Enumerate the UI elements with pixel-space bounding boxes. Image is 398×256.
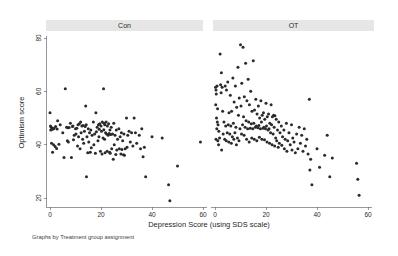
- data-point: [238, 97, 241, 100]
- data-point: [118, 147, 121, 150]
- data-point: [248, 141, 251, 144]
- data-point: [236, 137, 239, 140]
- data-point: [128, 130, 131, 133]
- data-point: [120, 148, 123, 151]
- data-points-ot: [214, 43, 361, 197]
- data-point: [217, 143, 220, 146]
- data-point: [249, 127, 252, 130]
- data-point: [259, 99, 262, 102]
- data-point: [303, 127, 306, 130]
- data-point: [276, 129, 279, 132]
- y-axis-title: Optimism score: [17, 96, 26, 148]
- y-tick-label-80: 80: [35, 34, 42, 42]
- data-point: [217, 130, 220, 133]
- data-point: [138, 134, 141, 137]
- data-points-con: [49, 87, 202, 202]
- data-point: [253, 138, 256, 141]
- data-point: [328, 175, 331, 178]
- data-point: [294, 151, 297, 154]
- data-point: [215, 117, 218, 120]
- data-point: [112, 122, 115, 125]
- data-point: [231, 77, 234, 80]
- data-point: [49, 125, 52, 128]
- data-point: [89, 151, 92, 154]
- data-point: [214, 103, 217, 106]
- data-point: [235, 106, 238, 109]
- data-point: [263, 118, 266, 121]
- data-point: [226, 81, 229, 84]
- data-point: [56, 127, 59, 130]
- data-point: [143, 146, 146, 149]
- data-point: [267, 113, 270, 116]
- data-point: [273, 145, 276, 148]
- data-point: [49, 111, 52, 114]
- data-point: [236, 66, 239, 69]
- data-point: [281, 135, 284, 138]
- data-point: [259, 127, 262, 130]
- data-point: [331, 157, 334, 160]
- data-point: [247, 78, 250, 81]
- data-point: [270, 123, 273, 126]
- data-point: [289, 143, 292, 146]
- data-point: [116, 138, 119, 141]
- data-point: [243, 134, 246, 137]
- data-point: [220, 91, 223, 94]
- x-tick-label-con-60: 60: [199, 211, 207, 218]
- data-point: [79, 147, 82, 150]
- data-point: [266, 141, 269, 144]
- data-point: [250, 122, 253, 125]
- data-point: [215, 127, 218, 130]
- data-point: [79, 121, 82, 124]
- data-point: [242, 115, 245, 118]
- data-point: [249, 90, 252, 93]
- data-point: [229, 94, 232, 97]
- data-point: [279, 131, 282, 134]
- x-tick-label-con-20: 20: [97, 211, 105, 218]
- data-point: [126, 146, 129, 149]
- data-point: [308, 98, 311, 101]
- data-point: [237, 114, 240, 117]
- data-point: [224, 125, 227, 128]
- data-point: [245, 138, 248, 141]
- data-point: [273, 126, 276, 129]
- data-point: [358, 194, 361, 197]
- data-point: [261, 114, 264, 117]
- data-point: [216, 85, 219, 88]
- data-point: [248, 103, 251, 106]
- data-point: [246, 127, 249, 130]
- data-point: [121, 139, 124, 142]
- data-point: [231, 135, 234, 138]
- data-point: [242, 46, 245, 49]
- data-point: [304, 145, 307, 148]
- data-point: [84, 125, 87, 128]
- data-point: [115, 129, 118, 132]
- data-point: [80, 131, 83, 134]
- data-point: [326, 134, 329, 137]
- data-point: [285, 122, 288, 125]
- data-point: [284, 138, 287, 141]
- data-point: [110, 147, 113, 150]
- data-point: [268, 142, 271, 145]
- data-point: [232, 122, 235, 125]
- data-point: [77, 135, 80, 138]
- data-point: [216, 139, 219, 142]
- data-point: [72, 138, 75, 141]
- data-point: [83, 130, 86, 133]
- data-point: [85, 175, 88, 178]
- data-point: [265, 102, 268, 105]
- data-point: [106, 150, 109, 153]
- data-point: [103, 138, 106, 141]
- data-point: [96, 139, 99, 142]
- data-point: [283, 147, 286, 150]
- data-point: [139, 147, 142, 150]
- data-point: [215, 89, 218, 92]
- data-point: [135, 142, 138, 145]
- data-point: [295, 133, 298, 136]
- data-point: [109, 152, 112, 155]
- x-tick-label-ot-40: 40: [313, 211, 321, 218]
- data-point: [99, 150, 102, 153]
- data-point: [151, 135, 154, 138]
- data-point: [61, 131, 64, 134]
- data-point: [110, 126, 113, 129]
- data-point: [244, 62, 247, 65]
